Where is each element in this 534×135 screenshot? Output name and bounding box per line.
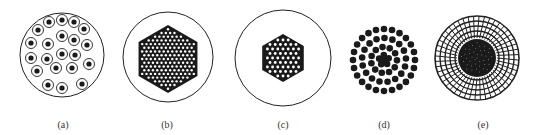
figure-canvas: [0, 0, 534, 135]
panel-e-label: (e): [477, 119, 488, 130]
panel-b-dense-hex-cluster: [123, 12, 213, 102]
panel-d-label: (d): [378, 119, 390, 130]
panel-a-label: (a): [57, 119, 68, 130]
panel-d-concentric-dots: [350, 26, 419, 95]
panel-a-ringed-cells: [20, 13, 104, 97]
panel-e-concentric-mesh: [435, 16, 519, 100]
panel-b-label: (b): [161, 119, 173, 130]
panel-c-small-hex-cluster: [235, 10, 331, 106]
panel-c-label: (c): [277, 119, 288, 130]
